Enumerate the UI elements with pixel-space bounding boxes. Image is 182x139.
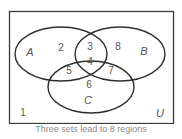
- set-b-ellipse: [75, 27, 165, 81]
- region-6-label: 6: [86, 79, 92, 90]
- region-5-label: 5: [66, 65, 72, 76]
- figure-caption: Three sets lead to 8 regions: [0, 124, 182, 134]
- set-c-label: C: [84, 94, 92, 106]
- universe-rectangle: [10, 12, 174, 124]
- region-4-label: 4: [87, 56, 93, 67]
- region-3-label: 3: [87, 41, 93, 52]
- set-a-label: A: [25, 46, 33, 58]
- universe-label: U: [156, 107, 164, 119]
- region-2-label: 2: [58, 42, 64, 53]
- region-7-label: 7: [108, 65, 114, 76]
- region-1-label: 1: [20, 107, 26, 118]
- venn-diagram: A B C U 1 2 3 4 5 6 7 8: [0, 0, 182, 124]
- set-b-label: B: [140, 45, 147, 57]
- region-8-label: 8: [115, 41, 121, 52]
